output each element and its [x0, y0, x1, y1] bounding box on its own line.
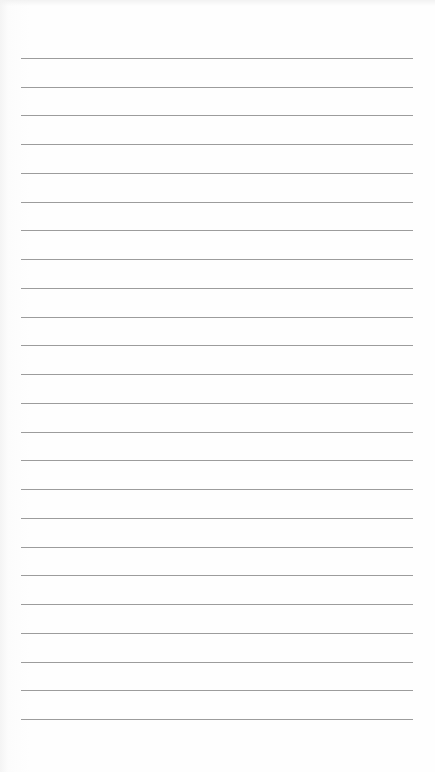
ruled-line	[21, 460, 413, 461]
ruled-line	[21, 489, 413, 490]
ruled-line	[21, 87, 413, 88]
ruled-line	[21, 432, 413, 433]
ruled-line	[21, 403, 413, 404]
ruled-line	[21, 719, 413, 720]
page-top-edge	[0, 0, 435, 6]
ruled-line	[21, 604, 413, 605]
ruled-line	[21, 575, 413, 576]
ruled-line	[21, 259, 413, 260]
ruled-line	[21, 144, 413, 145]
ruled-line	[21, 173, 413, 174]
ruled-line	[21, 230, 413, 231]
ruled-line	[21, 317, 413, 318]
ruled-line	[21, 58, 413, 59]
notebook-page	[0, 0, 435, 772]
ruled-line	[21, 662, 413, 663]
ruled-line	[21, 345, 413, 346]
ruled-line	[21, 633, 413, 634]
ruled-line	[21, 202, 413, 203]
ruled-line	[21, 115, 413, 116]
ruled-line	[21, 374, 413, 375]
ruled-line	[21, 518, 413, 519]
ruled-line	[21, 547, 413, 548]
ruled-line	[21, 288, 413, 289]
ruled-line	[21, 690, 413, 691]
